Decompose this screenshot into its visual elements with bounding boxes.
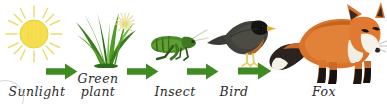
grasshopper-icon [143,26,209,66]
label-fox: Fox [298,85,350,98]
food-chain-diagram: Sunlight [0,0,387,104]
sun-icon [2,2,66,66]
fox-illustration [263,0,387,88]
green-plant-illustration [68,2,144,68]
fox-icon [263,0,387,88]
label-insect: Insect [146,85,204,98]
label-green-plant-line2: plant [81,84,116,99]
label-green-plant: Greenplant [70,72,126,98]
insect-illustration [143,26,209,66]
grass-plant-icon [68,2,144,68]
label-sunlight: Sunlight [6,85,68,98]
sunlight-illustration [2,2,66,66]
label-bird: Bird [205,85,263,98]
